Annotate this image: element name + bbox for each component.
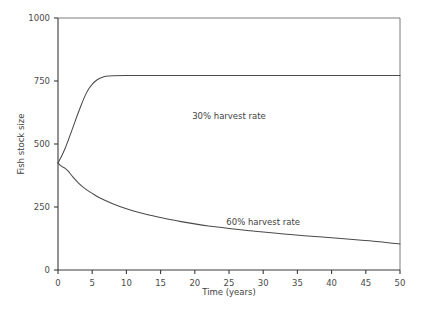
x-tick-label-5: 5 [89,278,94,288]
series-annotation-1: 60% harvest rate [226,217,300,227]
y-tick-label-750: 750 [34,76,50,86]
x-tick-label-45: 45 [360,278,371,288]
x-tick-label-40: 40 [326,278,337,288]
y-tick-label-1000: 1000 [28,13,50,23]
x-tick-label-50: 50 [395,278,406,288]
y-axis-title: Fish stock size [16,114,26,175]
chart-background [0,0,427,310]
x-tick-label-20: 20 [189,278,200,288]
x-axis-title: Time (years) [201,287,256,297]
x-tick-label-10: 10 [121,278,132,288]
chart-svg: 02505007501000 05101520253035404550 30% … [0,0,427,310]
x-tick-label-0: 0 [55,278,60,288]
series-annotation-0: 30% harvest rate [192,111,266,121]
fish-stock-chart: 02505007501000 05101520253035404550 30% … [0,0,427,310]
x-tick-label-35: 35 [292,278,303,288]
y-tick-label-0: 0 [45,265,50,275]
x-tick-label-30: 30 [258,278,269,288]
y-tick-label-250: 250 [34,202,50,212]
y-tick-label-500: 500 [34,139,50,149]
x-tick-label-15: 15 [155,278,166,288]
